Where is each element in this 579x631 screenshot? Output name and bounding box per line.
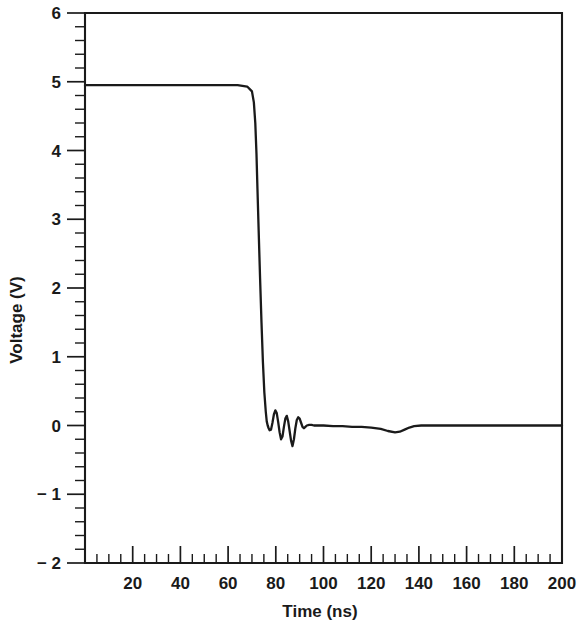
y-tick-label: 4 [52, 142, 62, 161]
y-tick-label: 2 [52, 279, 61, 298]
y-axis-title: Voltage (V) [7, 276, 26, 364]
chart-figure: − 2− 10123456 20406080100120140160180200… [0, 0, 579, 631]
x-tick-label: 40 [171, 574, 190, 593]
x-axis-title: Time (ns) [282, 602, 357, 621]
x-tick-label: 160 [452, 574, 480, 593]
y-tick-label: − 2 [37, 554, 61, 573]
y-tick-label: 1 [52, 348, 61, 367]
voltage-vs-time-plot: − 2− 10123456 20406080100120140160180200… [0, 0, 579, 631]
x-tick-label: 140 [405, 574, 433, 593]
y-tick-label: 5 [52, 73, 61, 92]
x-tick-label: 100 [309, 574, 337, 593]
x-tick-label: 60 [219, 574, 238, 593]
y-tick-label: 3 [52, 210, 61, 229]
x-tick-label: 80 [266, 574, 285, 593]
x-tick-label: 120 [357, 574, 385, 593]
y-tick-label: 6 [52, 4, 61, 23]
x-tick-label: 200 [548, 574, 576, 593]
x-tick-label: 180 [500, 574, 528, 593]
x-tick-label: 20 [123, 574, 142, 593]
y-tick-label: 0 [52, 417, 61, 436]
plot-background [0, 0, 579, 631]
y-tick-label: − 1 [37, 485, 61, 504]
